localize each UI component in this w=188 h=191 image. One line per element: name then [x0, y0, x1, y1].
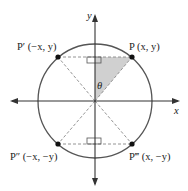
shaded-triangle	[95, 57, 132, 101]
unit-circle-diagram: y x θ P (x, y) P′ (−x, y) P″ (−x, −y) P‴…	[0, 0, 188, 191]
label-p-triple-prime: P‴ (x, −y)	[129, 151, 171, 163]
point-p	[129, 54, 134, 59]
y-axis-up-arrow	[92, 14, 98, 22]
point-p-double-prime	[55, 141, 60, 146]
label-p-double-prime: P″ (−x, −y)	[10, 151, 58, 163]
label-p: P (x, y)	[129, 41, 160, 53]
label-p-prime: P′ (−x, y)	[17, 41, 57, 53]
point-p-prime	[55, 54, 60, 59]
right-angle-bottom	[87, 138, 101, 144]
point-p-triple-prime	[129, 141, 134, 146]
x-axis-right-arrow	[172, 98, 180, 104]
x-axis-left-arrow	[10, 98, 18, 104]
x-axis-label: x	[173, 105, 179, 116]
y-axis-down-arrow	[92, 178, 98, 186]
y-axis-label: y	[86, 10, 92, 21]
theta-label: θ	[97, 80, 102, 91]
